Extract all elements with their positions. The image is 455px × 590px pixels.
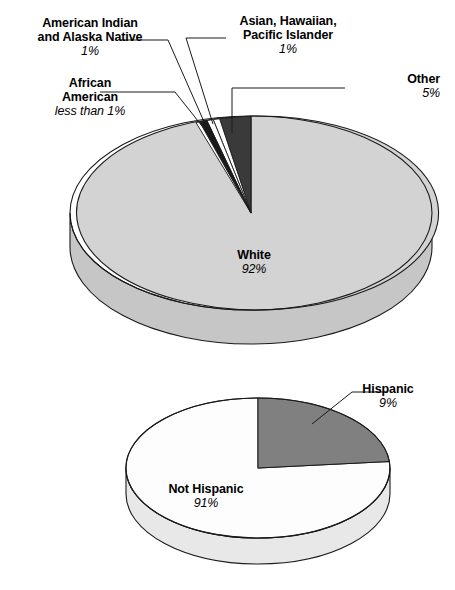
label-american-indian-line2: and Alaska Native bbox=[8, 30, 172, 44]
label-african-american-line2: American bbox=[8, 90, 172, 104]
label-white: White 92% bbox=[198, 248, 310, 276]
label-other-line1: Other bbox=[330, 72, 440, 86]
label-not-hispanic: Not Hispanic 91% bbox=[140, 482, 272, 510]
label-african-american-line1: African bbox=[8, 76, 172, 90]
race-slice-white bbox=[77, 116, 439, 310]
label-american-indian-percent: 1% bbox=[8, 44, 172, 58]
label-other-percent: 5% bbox=[330, 86, 440, 100]
hispanic-origin-pie-chart bbox=[126, 392, 390, 564]
label-asian-hawaiian-pacific-islander: Asian, Hawaiian, Pacific Islander 1% bbox=[222, 14, 354, 56]
label-african-american: African American less than 1% bbox=[8, 76, 172, 118]
label-hispanic: Hispanic 9% bbox=[334, 382, 442, 410]
label-white-line1: White bbox=[198, 248, 310, 262]
label-asian-line1: Asian, Hawaiian, bbox=[222, 14, 354, 28]
label-other: Other 5% bbox=[330, 72, 440, 100]
label-white-percent: 92% bbox=[198, 262, 310, 276]
label-asian-line2: Pacific Islander bbox=[222, 28, 354, 42]
figure-root: American Indian and Alaska Native 1% Afr… bbox=[0, 0, 455, 590]
label-asian-percent: 1% bbox=[222, 42, 354, 56]
label-american-indian-alaska-native: American Indian and Alaska Native 1% bbox=[8, 16, 172, 58]
label-not-hispanic-line1: Not Hispanic bbox=[140, 482, 272, 496]
label-american-indian-line1: American Indian bbox=[8, 16, 172, 30]
label-hispanic-line1: Hispanic bbox=[334, 382, 442, 396]
leader-line-asian bbox=[186, 38, 226, 124]
label-hispanic-percent: 9% bbox=[334, 396, 442, 410]
label-not-hispanic-percent: 91% bbox=[140, 496, 272, 510]
label-african-american-percent: less than 1% bbox=[8, 104, 172, 118]
